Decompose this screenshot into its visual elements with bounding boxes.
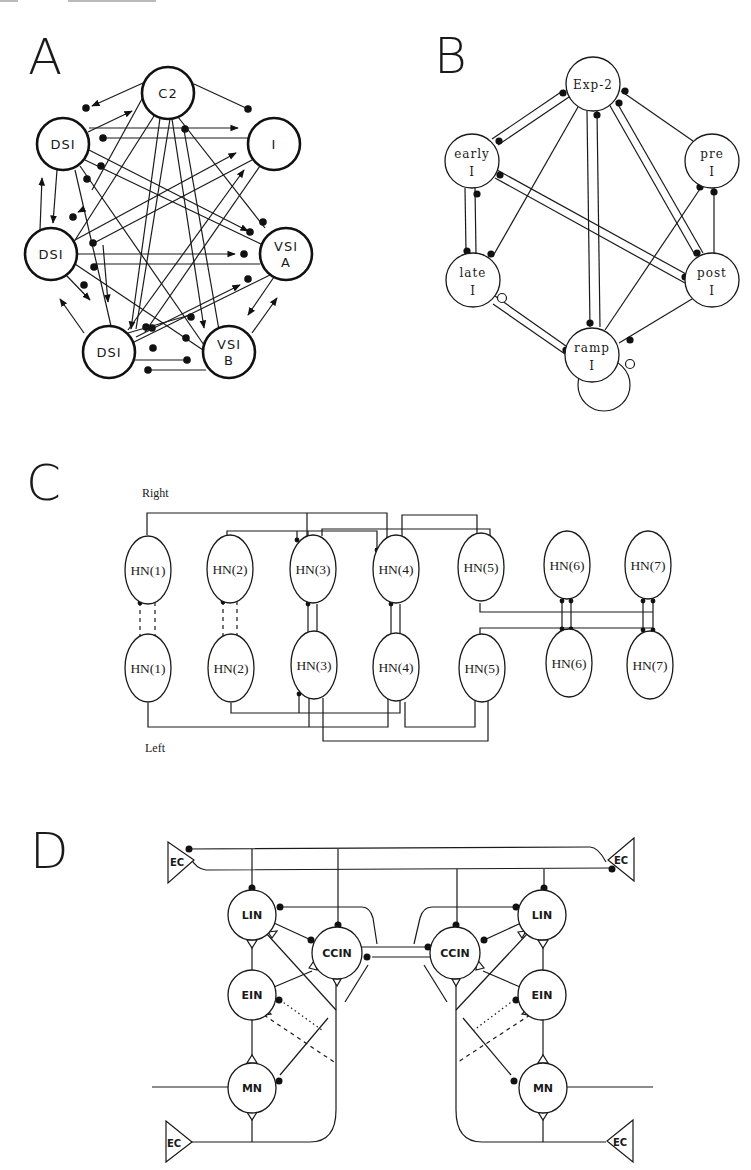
node-lin-right: LIN <box>518 890 566 940</box>
panel-c: C Right Left <box>26 454 673 755</box>
node-post-i: post I <box>685 253 739 307</box>
running-header-fragment <box>0 0 156 2</box>
node-hn1-right: HN(1) <box>125 536 171 604</box>
svg-text:pre: pre <box>700 147 724 161</box>
panel-letter-b: B <box>434 27 467 85</box>
panel-b: B <box>434 27 739 411</box>
svg-text:A: A <box>281 255 291 270</box>
svg-text:HN(6): HN(6) <box>551 656 586 671</box>
ec-bottom-right: EC <box>607 1120 633 1162</box>
node-dsi-top: DSI <box>37 118 89 170</box>
label-left: Left <box>145 741 166 755</box>
svg-text:EIN: EIN <box>532 989 553 1002</box>
node-hn4-left: HN(4) <box>373 633 419 701</box>
node-hn5-left: HN(5) <box>459 634 505 702</box>
node-dsi-bottom: DSI <box>83 326 135 378</box>
node-hn6-right: HN(6) <box>544 531 590 599</box>
svg-text:HN(2): HN(2) <box>213 661 248 676</box>
node-dsi-middle: DSI <box>25 228 77 280</box>
hn-bottom-row: HN(1) HN(2) HN(3) HN(4) HN(5) HN(6) HN(7… <box>125 629 673 702</box>
node-hn7-left: HN(7) <box>627 631 673 699</box>
node-vsi-b: VSI B <box>203 326 255 378</box>
svg-text:B: B <box>224 353 234 368</box>
svg-text:EC: EC <box>613 1137 627 1148</box>
svg-text:HN(7): HN(7) <box>632 658 667 673</box>
node-pre-i: pre I <box>685 134 739 188</box>
svg-text:HN(3): HN(3) <box>295 562 330 577</box>
figure-canvas: A <box>0 0 751 1170</box>
svg-text:HN(4): HN(4) <box>378 562 413 577</box>
svg-text:HN(6): HN(6) <box>549 558 584 573</box>
svg-text:VSI: VSI <box>217 337 241 352</box>
node-ccin-left: CCIN <box>312 927 362 979</box>
node-early-i: early I <box>445 134 499 188</box>
node-ccin-right: CCIN <box>430 927 480 979</box>
node-hn4-right: HN(4) <box>373 535 419 603</box>
svg-text:HN(4): HN(4) <box>378 660 413 675</box>
panel-letter-c: C <box>26 454 61 512</box>
ec-bottom-left: EC <box>166 1121 192 1162</box>
panel-letter-d: D <box>30 822 69 880</box>
svg-text:post: post <box>697 266 727 280</box>
svg-text:DSI: DSI <box>38 247 63 262</box>
svg-text:EC: EC <box>170 857 184 868</box>
svg-text:DSI: DSI <box>96 345 121 360</box>
svg-text:C2: C2 <box>158 86 177 101</box>
svg-text:HN(1): HN(1) <box>130 661 165 676</box>
panel-d-connections <box>152 846 653 1143</box>
node-late-i: late I <box>446 253 500 307</box>
svg-text:HN(1): HN(1) <box>130 563 165 578</box>
label-right: Right <box>142 486 169 500</box>
panel-a: A <box>25 28 312 378</box>
svg-text:early: early <box>454 147 490 161</box>
node-ein-left: EIN <box>228 970 276 1020</box>
node-mn-right: MN <box>519 1063 567 1113</box>
svg-text:EC: EC <box>167 1138 181 1149</box>
node-exp-2: Exp-2 <box>566 57 620 111</box>
panel-d: D <box>30 822 653 1162</box>
node-hn2-right: HN(2) <box>207 535 253 603</box>
svg-text:EC: EC <box>614 855 628 866</box>
node-hn3-left: HN(3) <box>291 631 337 699</box>
svg-text:LIN: LIN <box>242 909 262 922</box>
node-hn2-left: HN(2) <box>208 634 254 702</box>
panel-letter-a: A <box>28 28 62 86</box>
node-hn5-right: HN(5) <box>458 533 504 601</box>
svg-text:EIN: EIN <box>242 989 263 1002</box>
svg-text:HN(5): HN(5) <box>463 560 498 575</box>
svg-text:I: I <box>589 359 595 373</box>
node-i: I <box>248 118 300 170</box>
node-hn7-right: HN(7) <box>625 531 671 599</box>
svg-text:Exp-2: Exp-2 <box>573 78 613 92</box>
hn-top-row: HN(1) HN(2) HN(3) HN(4) HN(5) HN(6) HN(7… <box>125 531 671 604</box>
svg-text:I: I <box>469 165 475 179</box>
svg-text:I: I <box>709 165 715 179</box>
svg-text:CCIN: CCIN <box>440 947 469 960</box>
svg-text:HN(2): HN(2) <box>212 562 247 577</box>
node-c2: C2 <box>142 67 194 119</box>
svg-text:LIN: LIN <box>532 909 552 922</box>
svg-text:I: I <box>272 137 277 152</box>
svg-text:CCIN: CCIN <box>322 947 351 960</box>
svg-text:VSI: VSI <box>274 239 298 254</box>
node-hn1-left: HN(1) <box>125 634 171 702</box>
svg-text:late: late <box>460 266 487 280</box>
svg-text:ramp: ramp <box>574 341 610 355</box>
svg-text:MN: MN <box>533 1082 553 1095</box>
svg-text:MN: MN <box>242 1082 262 1095</box>
node-ramp-i: ramp I <box>565 328 619 382</box>
node-ein-right: EIN <box>518 970 566 1020</box>
svg-text:I: I <box>470 284 476 298</box>
svg-text:I: I <box>709 284 715 298</box>
svg-text:DSI: DSI <box>50 137 75 152</box>
svg-text:HN(3): HN(3) <box>296 658 331 673</box>
node-mn-left: MN <box>228 1063 276 1113</box>
node-vsi-a: VSI A <box>260 228 312 280</box>
svg-text:HN(7): HN(7) <box>630 558 665 573</box>
svg-text:HN(5): HN(5) <box>464 661 499 676</box>
node-hn3-right: HN(3) <box>290 535 336 603</box>
node-hn6-left: HN(6) <box>546 629 592 697</box>
ec-top-right: EC <box>608 838 634 881</box>
node-lin-left: LIN <box>228 890 276 940</box>
